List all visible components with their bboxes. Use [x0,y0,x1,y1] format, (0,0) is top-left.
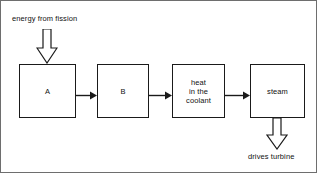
diagram-canvas: energy from fission A B heat in the cool… [0,0,328,182]
process-box-heat-label: heat in the coolant [186,78,211,105]
process-box-b-label: B [120,87,125,96]
energy-from-fission-label: energy from fission [12,14,77,24]
process-box-a: A [19,64,76,118]
process-box-b: B [97,64,149,118]
block-arrow-down-icon-input [36,29,58,64]
block-arrow-down-icon-output [266,118,288,150]
drives-turbine-label: drives turbine [248,152,294,162]
process-box-a-label: A [45,87,50,96]
process-box-steam: steam [250,64,305,118]
process-box-heat-in-the-coolant: heat in the coolant [172,64,225,118]
process-box-steam-label: steam [267,87,288,96]
arrow-right-icon-heat-to-steam [225,86,251,95]
arrow-right-icon-b-to-heat [149,86,173,95]
arrow-right-icon-a-to-b [76,86,98,95]
